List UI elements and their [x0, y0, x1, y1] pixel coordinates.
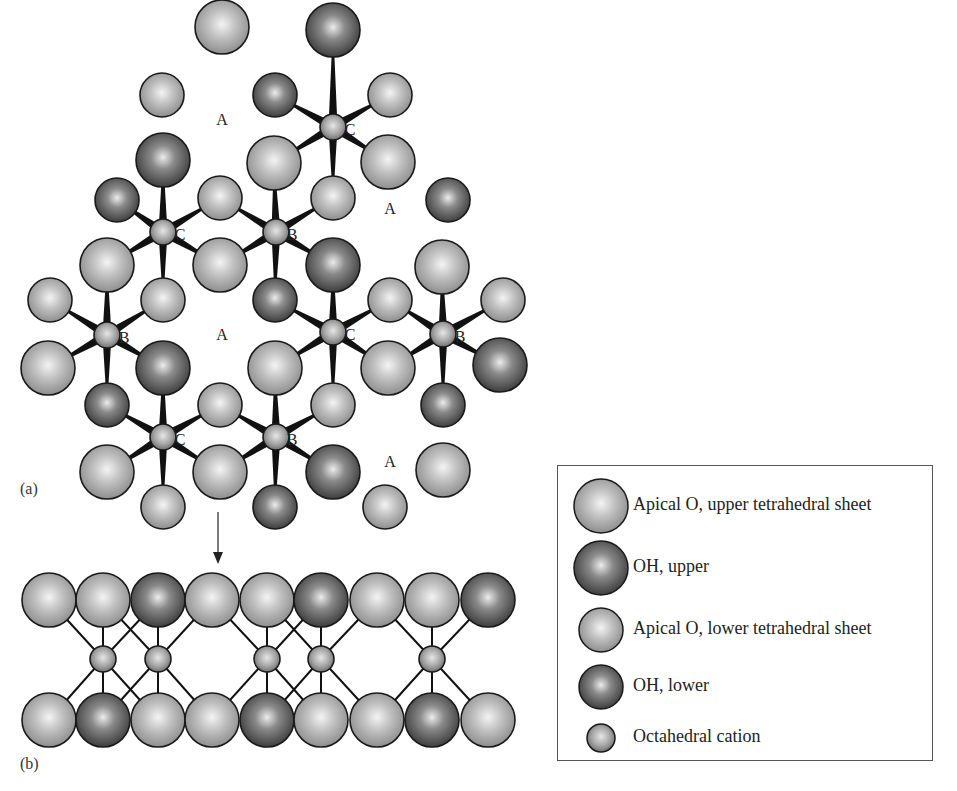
oh-lower-sphere	[95, 178, 139, 222]
apical-o-upper-sphere	[22, 573, 76, 627]
apical-o-lower-sphere	[198, 383, 242, 427]
apical-o-upper-sphere	[350, 573, 404, 627]
apical-o-lower-sphere	[311, 176, 355, 220]
oh-lower-sphere	[76, 693, 130, 747]
projection-arrow	[213, 512, 223, 564]
legend-label: Apical O, upper tetrahedral sheet	[633, 494, 871, 515]
site-label-c: C	[175, 226, 186, 243]
apical-o-upper-sphere	[195, 0, 249, 54]
apical-o-lower-sphere	[368, 73, 412, 117]
oh-lower-sphere	[421, 383, 465, 427]
legend-label: Octahedral cation	[633, 726, 760, 747]
apical-o-upper-sphere	[193, 238, 247, 292]
apical-o-lower-sphere	[141, 278, 185, 322]
site-label-a: A	[384, 453, 396, 470]
oh-upper-sphere	[306, 238, 360, 292]
oh-lower-sphere	[405, 693, 459, 747]
apical-o-lower-sphere	[368, 278, 412, 322]
oh-upper-sphere	[306, 445, 360, 499]
legend-label: Apical O, lower tetrahedral sheet	[633, 618, 871, 639]
octahedral-cation-c	[320, 319, 346, 345]
site-label-a: A	[216, 326, 228, 343]
oh-upper-sphere-icon	[566, 538, 636, 598]
octahedral-cation-c	[320, 114, 346, 140]
apical-o-upper-sphere	[405, 573, 459, 627]
panel-b-label: (b)	[20, 755, 39, 773]
apical-o-lower-sphere	[185, 693, 239, 747]
octahedral-cation	[308, 646, 334, 672]
legend-item-oh-lower: OH, lower	[558, 657, 932, 707]
site-label-b: B	[455, 328, 466, 345]
spheres-layer-b	[22, 573, 515, 747]
oh-upper-sphere	[473, 338, 527, 392]
apical-o-upper-sphere	[76, 573, 130, 627]
apical-o-lower-sphere	[363, 485, 407, 529]
apical-o-upper-sphere	[240, 573, 294, 627]
site-label-a: A	[216, 111, 228, 128]
octahedral-cation-b	[263, 219, 289, 245]
apical-o-lower-sphere	[461, 693, 515, 747]
octahedral-cation	[145, 646, 171, 672]
legend-item-octahedral-cation: Octahedral cation	[558, 708, 932, 758]
apical-o-upper-sphere-icon	[566, 476, 636, 536]
apical-o-upper-sphere	[80, 445, 134, 499]
site-label-b: B	[119, 329, 130, 346]
apical-o-upper-sphere	[416, 443, 470, 497]
oh-lower-sphere	[253, 73, 297, 117]
panel-a-label: (a)	[20, 480, 38, 498]
oh-upper-sphere	[136, 341, 190, 395]
legend-label: OH, upper	[633, 556, 709, 577]
oh-lower-sphere	[253, 485, 297, 529]
apical-o-upper-sphere	[21, 341, 75, 395]
site-label-c: C	[345, 121, 356, 138]
apical-o-lower-sphere-icon	[566, 600, 636, 660]
apical-o-lower-sphere	[350, 693, 404, 747]
site-label-c: C	[345, 326, 356, 343]
octahedral-cation-b	[94, 322, 120, 348]
octahedral-cation-b	[263, 424, 289, 450]
octahedral-cation-c	[150, 424, 176, 450]
legend-item-apical-o-upper: Apical O, upper tetrahedral sheet	[558, 476, 932, 526]
apical-o-lower-sphere	[481, 278, 525, 322]
apical-o-lower-sphere	[311, 383, 355, 427]
oh-upper-sphere	[136, 133, 190, 187]
site-label-c: C	[175, 431, 186, 448]
oh-upper-sphere	[461, 573, 515, 627]
apical-o-upper-sphere	[185, 573, 239, 627]
oh-upper-sphere	[131, 573, 185, 627]
octahedral-cation-c	[150, 219, 176, 245]
octahedral-cation	[90, 646, 116, 672]
octahedral-cation	[419, 646, 445, 672]
legend-item-oh-upper: OH, upper	[558, 538, 932, 588]
apical-o-upper-sphere	[415, 240, 469, 294]
oh-lower-sphere	[240, 693, 294, 747]
octahedral-cation	[254, 646, 280, 672]
apical-o-lower-sphere	[22, 693, 76, 747]
apical-o-lower-sphere	[294, 693, 348, 747]
oh-upper-sphere	[306, 3, 360, 57]
site-label-b: B	[287, 431, 298, 448]
apical-o-upper-sphere	[361, 135, 415, 189]
oh-upper-sphere	[294, 573, 348, 627]
legend: Apical O, upper tetrahedral sheet OH, up…	[557, 465, 933, 761]
apical-o-upper-sphere	[248, 341, 302, 395]
apical-o-upper-sphere	[247, 136, 301, 190]
oh-lower-sphere	[426, 178, 470, 222]
site-label-b: B	[287, 226, 298, 243]
octahedral-cation-b	[430, 321, 456, 347]
apical-o-lower-sphere	[140, 73, 184, 117]
legend-label: OH, lower	[633, 675, 709, 696]
apical-o-upper-sphere	[193, 445, 247, 499]
apical-o-upper-sphere	[80, 238, 134, 292]
apical-o-upper-sphere	[361, 341, 415, 395]
site-label-a: A	[384, 200, 396, 217]
apical-o-lower-sphere	[131, 693, 185, 747]
octahedral-cation-sphere-icon	[566, 708, 636, 768]
oh-lower-sphere	[85, 383, 129, 427]
apical-o-lower-sphere	[198, 176, 242, 220]
legend-item-apical-o-lower: Apical O, lower tetrahedral sheet	[558, 600, 932, 650]
oh-lower-sphere	[253, 278, 297, 322]
apical-o-lower-sphere	[141, 485, 185, 529]
apical-o-lower-sphere	[28, 278, 72, 322]
